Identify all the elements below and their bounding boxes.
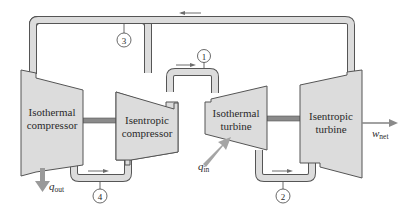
work-out-arrow-icon [362,119,398,127]
state-marker-4: 4 [93,182,107,203]
flow-arrow-state-1 [176,63,196,67]
pipe-loop-3-inner [33,20,148,74]
state-marker-3: 3 [117,24,131,47]
isothermal-turbine-label-2: turbine [220,120,251,132]
cycle-diagram: Isothermal compressor Isentropic compres… [0,0,417,219]
shaft-compressors [83,118,117,123]
isothermal-compressor-label-1: Isothermal [28,106,75,118]
isentropic-compressor-label-2: compressor [122,127,173,139]
svg-text:4: 4 [98,192,103,202]
heat-in-arrow-icon [203,137,231,167]
q-out-label: qout [49,180,65,194]
w-net-label: wnet [372,127,389,141]
pipe-top-return [33,20,147,73]
isentropic-turbine-label-1: Isentropic [309,110,353,122]
state-marker-2: 2 [276,182,290,203]
state-marker-1: 1 [198,50,211,69]
shaft-turbines [267,116,300,121]
flow-arrow-top-left [179,11,201,15]
flow-arrow-state-4 [88,169,109,173]
isentropic-compressor-label-1: Isentropic [125,114,169,126]
flow-arrow-state-2 [272,169,293,173]
pipe-loop-3 [33,20,148,74]
isothermal-compressor-label-2: compressor [27,119,78,131]
isentropic-turbine-label-2: turbine [315,123,346,135]
pipe-state-1 [170,72,215,93]
svg-text:2: 2 [281,192,286,202]
svg-text:1: 1 [202,52,207,62]
svg-text:3: 3 [122,36,127,46]
isothermal-turbine-label-1: Isothermal [212,107,259,119]
pipe-state-3 [33,20,150,73]
